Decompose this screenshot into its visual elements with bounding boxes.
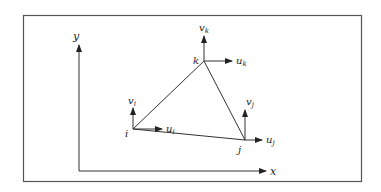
node-i: i vi ui bbox=[125, 95, 175, 139]
node-i-label: i bbox=[125, 128, 128, 139]
edge-i-j bbox=[133, 129, 245, 140]
u-j-label: uj bbox=[266, 134, 275, 147]
triangle-element-diagram: y x i vi ui j vj uj k vk uk bbox=[0, 0, 381, 192]
edge-j-k bbox=[204, 61, 245, 140]
triangle-edges bbox=[133, 61, 245, 140]
y-axis-label: y bbox=[72, 30, 80, 43]
node-j: j vj uj bbox=[236, 96, 275, 155]
u-k-label: uk bbox=[236, 55, 247, 68]
node-k: k vk uk bbox=[193, 22, 247, 68]
node-j-label: j bbox=[236, 144, 241, 155]
v-i-label: vi bbox=[128, 95, 136, 108]
edge-k-i bbox=[133, 61, 204, 129]
u-i-label: ui bbox=[166, 123, 175, 136]
node-k-label: k bbox=[193, 55, 199, 66]
x-axis-label: x bbox=[270, 165, 277, 178]
v-k-label: vk bbox=[199, 22, 209, 35]
v-j-label: vj bbox=[246, 96, 255, 109]
